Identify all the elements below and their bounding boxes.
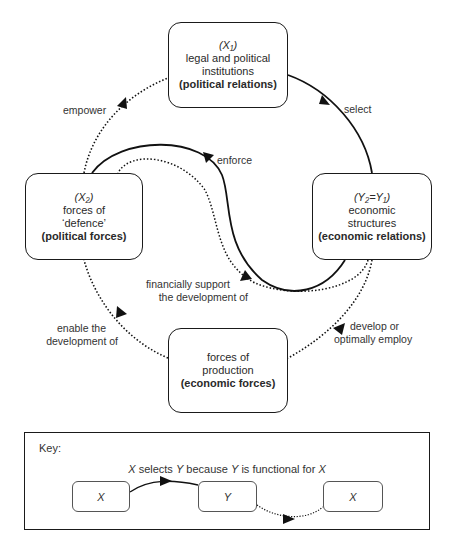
key-caption-text: selects [136,463,176,475]
node-line: institutions [202,65,254,78]
node-category: (economic forces) [181,377,276,390]
key-box-x-2: X [323,481,383,512]
label-financially-support-1: financially support [145,278,230,291]
key-box-x: X [72,481,130,512]
key-caption: X selects Y because Y is functional for … [25,463,429,475]
key-caption-x: X [128,463,135,475]
node-line: forces of [63,204,105,217]
node-line: economic [348,204,395,217]
node-symbol: (Y₂=Y₁) [354,191,390,204]
node-category: (political forces) [42,230,127,243]
key-box-y: Y [198,481,257,512]
label-enforce: enforce [217,154,252,167]
label-empower: empower [63,104,106,117]
key-caption-text: is functional for [238,463,318,475]
node-legal-political-institutions: (X₁) legal and political institutions (p… [168,22,288,108]
label-financially-support-2: the development of [140,291,248,304]
label-enable-1: enable the [40,322,106,335]
key-caption-x: X [318,463,325,475]
node-line: ‘defence’ [62,217,106,230]
node-line: production [202,364,253,377]
select-arrow [288,75,372,173]
key-title: Key: [39,442,61,454]
label-select: select [344,103,371,116]
label-develop-2: optimally employ [334,333,412,346]
node-symbol: (X₁) [219,39,237,52]
key-caption-text: because [183,463,231,475]
node-symbol: (X₂) [75,191,94,204]
node-forces-of-production: forces of production (economic forces) [168,328,288,413]
label-develop-1: develop or [350,320,399,333]
node-category: (economic relations) [318,230,426,243]
empower-arrow [84,78,168,173]
node-economic-structures: (Y₂=Y₁) economic structures (economic re… [312,173,432,260]
node-line: legal and political [186,52,270,65]
node-line: structures [348,217,396,230]
node-category: (political relations) [179,78,277,91]
node-forces-of-defence: (X₂) forces of ‘defence’ (political forc… [25,173,143,260]
label-enable-2: development of [30,335,118,348]
node-line: forces of [207,351,249,364]
